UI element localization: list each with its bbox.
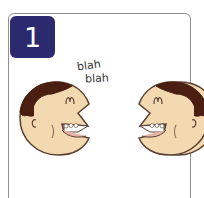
talking-faces-illustration: [0, 0, 204, 198]
left-face-icon: [20, 82, 89, 155]
